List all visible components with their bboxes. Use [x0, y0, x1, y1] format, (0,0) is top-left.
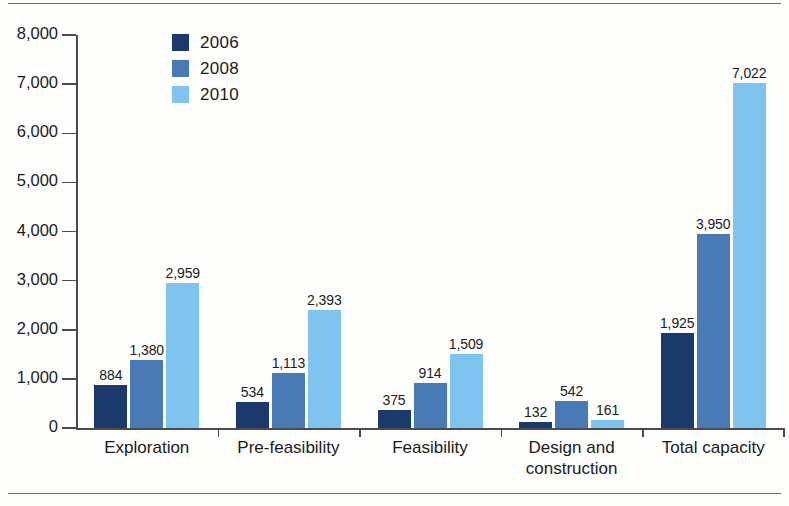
category-label: Pre-feasibility: [218, 437, 360, 458]
legend-swatch-icon: [172, 34, 189, 51]
y-axis-tick: [62, 427, 76, 429]
x-axis-tick: [642, 428, 644, 437]
bar-2010[interactable]: 1,509: [450, 354, 483, 428]
legend-item-2008[interactable]: 2008: [172, 58, 239, 79]
y-axis-tick: [62, 329, 76, 331]
legend-item-2010[interactable]: 2010: [172, 84, 239, 105]
y-axis-tick: [62, 34, 76, 36]
y-axis-tick-label: 1,000: [0, 368, 58, 387]
y-axis-tick-label: 5,000: [0, 171, 58, 190]
bar-value-label: 161: [596, 402, 619, 418]
bar-2006[interactable]: 534: [236, 402, 269, 428]
y-axis-tick: [62, 280, 76, 282]
x-axis-tick: [359, 428, 361, 437]
bar-2010[interactable]: 2,393: [308, 310, 341, 428]
bar-value-label: 375: [382, 392, 405, 408]
bar-group: 1,9253,9507,022: [661, 35, 766, 428]
y-axis-tick-label: 3,000: [0, 270, 58, 289]
bar-2006[interactable]: 375: [378, 410, 411, 428]
legend-label: 2008: [200, 59, 239, 79]
y-axis-tick: [62, 83, 76, 85]
category-label: Design and construction: [501, 437, 643, 480]
bar-value-label: 1,380: [130, 342, 165, 358]
bar-value-label: 2,393: [307, 292, 342, 308]
category-label: Total capacity: [642, 437, 784, 458]
legend-item-2006[interactable]: 2006: [172, 32, 239, 53]
bar-2010[interactable]: 7,022: [733, 83, 766, 428]
bar-2006[interactable]: 884: [94, 385, 127, 428]
x-axis-tick: [501, 428, 503, 437]
x-axis-line: [76, 428, 784, 430]
y-axis-tick: [62, 133, 76, 135]
bar-value-label: 1,113: [272, 355, 306, 371]
bar-2008[interactable]: 1,380: [130, 360, 163, 428]
bar-2008[interactable]: 3,950: [697, 234, 730, 428]
legend-label: 2006: [200, 33, 239, 53]
x-axis-tick: [783, 428, 785, 437]
bar-chart-figure: 01,0002,0003,0004,0005,0006,0007,0008,00…: [0, 0, 789, 506]
bar-value-label: 7,022: [732, 65, 767, 81]
bar-group: 132542161: [519, 35, 624, 428]
y-axis-tick-label: 6,000: [0, 122, 58, 141]
y-axis-tick-label: 0: [0, 417, 58, 436]
bar-2008[interactable]: 1,113: [272, 373, 305, 428]
bar-value-label: 884: [99, 367, 122, 383]
bar-2006[interactable]: 132: [519, 422, 552, 428]
legend-swatch-icon: [172, 86, 189, 103]
bar-value-label: 132: [524, 404, 547, 420]
legend-swatch-icon: [172, 60, 189, 77]
category-label: Exploration: [76, 437, 218, 458]
bar-value-label: 3,950: [696, 216, 731, 232]
bar-value-label: 914: [418, 365, 441, 381]
bar-group: 5341,1132,393: [236, 35, 341, 428]
legend-label: 2010: [200, 85, 239, 105]
bar-2006[interactable]: 1,925: [661, 333, 694, 428]
category-label: Feasibility: [359, 437, 501, 458]
bar-2008[interactable]: 542: [555, 401, 588, 428]
bar-value-label: 534: [241, 384, 264, 400]
y-axis-tick-label: 2,000: [0, 319, 58, 338]
y-axis-tick-label: 8,000: [0, 24, 58, 43]
bar-2008[interactable]: 914: [414, 383, 447, 428]
bar-value-label: 2,959: [166, 265, 201, 281]
y-axis-tick-label: 4,000: [0, 221, 58, 240]
bar-2010[interactable]: 2,959: [166, 283, 199, 428]
y-axis-tick-label: 7,000: [0, 73, 58, 92]
bar-value-label: 1,925: [660, 315, 695, 331]
top-divider-rule: [8, 3, 781, 4]
bar-value-label: 542: [560, 383, 583, 399]
bottom-divider-rule: [8, 493, 781, 494]
y-axis-tick: [62, 378, 76, 380]
bar-value-label: 1,509: [449, 336, 484, 352]
chart-legend: 200620082010: [172, 32, 239, 110]
y-axis-tick: [62, 182, 76, 184]
bar-2010[interactable]: 161: [591, 420, 624, 428]
x-axis-tick: [218, 428, 220, 437]
y-axis-tick: [62, 231, 76, 233]
bar-group: 3759141,509: [378, 35, 483, 428]
